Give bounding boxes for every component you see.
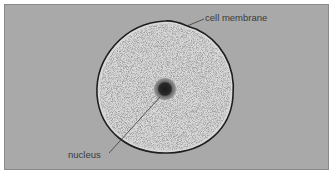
cell-diagram [0,0,334,175]
membrane-label: cell membrane [205,12,267,23]
nucleus [154,78,176,100]
membrane-leader-line [187,19,204,26]
nucleus-label: nucleus [68,149,101,160]
